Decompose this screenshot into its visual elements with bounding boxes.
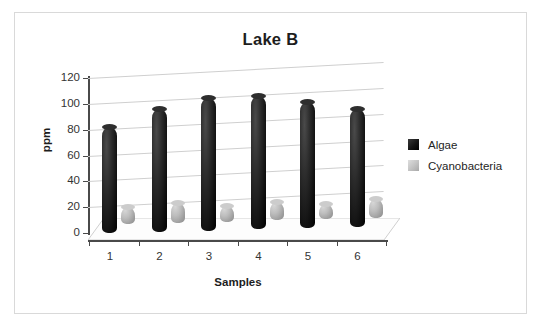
bar-cyanobacteria-2 — [171, 203, 185, 222]
legend-label-algae: Algae — [428, 139, 457, 151]
bar-cap — [319, 201, 333, 207]
bar-cyanobacteria-5 — [319, 204, 333, 220]
bar-cap — [300, 99, 315, 105]
x-tick-mark — [89, 240, 90, 246]
legend-label-cyanobacteria: Cyanobacteria — [428, 160, 502, 172]
algae-swatch-icon — [408, 139, 419, 150]
y-tick-label: 60 — [50, 150, 80, 162]
y-tick-label: 20 — [50, 201, 80, 213]
x-axis-title: Samples — [88, 276, 388, 288]
bar-cap — [152, 106, 167, 112]
x-tick-label: 2 — [145, 250, 175, 262]
bar-algae-2 — [152, 109, 167, 232]
y-axis-tick-labels: 120100806040200 — [44, 0, 80, 326]
bar-algae-4 — [251, 96, 266, 229]
bar-cap — [201, 95, 216, 101]
bar-algae-1 — [102, 127, 117, 233]
bar-cap — [270, 199, 284, 205]
bar-algae-3 — [201, 98, 216, 231]
chart-title: Lake B — [0, 30, 541, 49]
bar-cap — [369, 196, 383, 202]
bar-cap — [102, 124, 117, 130]
bar-cyanobacteria-1 — [121, 207, 135, 224]
y-tick-mark — [83, 233, 89, 234]
x-tick-label: 4 — [244, 250, 274, 262]
bar-cap — [220, 203, 234, 209]
cyanobacteria-swatch-icon — [408, 160, 419, 171]
bar-cap — [121, 204, 135, 210]
legend-item-cyanobacteria: Cyanobacteria — [408, 155, 502, 176]
y-tick-label: 40 — [50, 175, 80, 187]
bar-cap — [251, 93, 266, 99]
bar-cap — [350, 106, 365, 112]
bar-cyanobacteria-4 — [270, 202, 284, 220]
y-tick-label: 100 — [50, 98, 80, 110]
x-tick-label: 1 — [95, 250, 125, 262]
legend-item-algae: Algae — [408, 134, 502, 155]
chart-legend: Algae Cyanobacteria — [408, 134, 502, 176]
bar-cap — [171, 200, 185, 206]
x-tick-label: 5 — [293, 250, 323, 262]
bar-cyanobacteria-6 — [369, 199, 383, 218]
chart-figure: Lake B ppm 120100806040200 Samples Algae… — [0, 0, 541, 326]
x-tick-label: 3 — [194, 250, 224, 262]
x-tick-mark — [139, 240, 140, 246]
y-tick-label: 80 — [50, 124, 80, 136]
bar-cyanobacteria-3 — [220, 206, 234, 222]
x-tick-mark — [386, 240, 387, 246]
x-tick-mark — [238, 240, 239, 246]
x-tick-mark — [188, 240, 189, 246]
y-tick-label: 0 — [50, 227, 80, 239]
x-tick-mark — [287, 240, 288, 246]
bar-algae-5 — [300, 102, 315, 229]
x-tick-mark — [337, 240, 338, 246]
bar-algae-6 — [350, 109, 365, 227]
x-tick-label: 6 — [343, 250, 373, 262]
y-tick-label: 120 — [50, 72, 80, 84]
